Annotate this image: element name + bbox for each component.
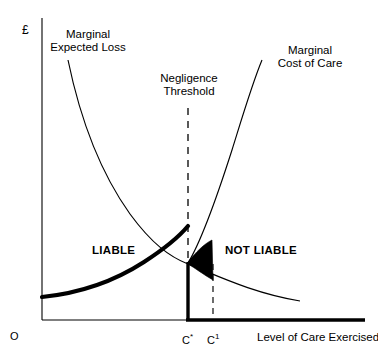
- marginal-expected-loss-label-line1: Marginal: [40, 28, 136, 41]
- y-axis-label: £: [22, 24, 29, 38]
- tick-label-c-star: C*: [182, 332, 193, 346]
- marginal-cost-of-care-label-line1: Marginal: [262, 44, 358, 57]
- liable-region-label: LIABLE: [92, 244, 135, 257]
- tick-label-c-star-superscript: *: [190, 332, 193, 341]
- marginal-expected-loss-label-line2: Expected Loss: [40, 41, 136, 54]
- marginal-cost-of-care-curve-bold: [42, 226, 188, 297]
- deadweight-triangle-shading: [188, 240, 213, 280]
- negligence-threshold-label: Negligence Threshold: [141, 72, 237, 98]
- marginal-cost-of-care-label: Marginal Cost of Care: [262, 44, 358, 70]
- negligence-threshold-label-line2: Threshold: [141, 85, 237, 98]
- negligence-threshold-label-line1: Negligence: [141, 72, 237, 85]
- negligence-economics-diagram: £ Marginal Expected Loss Marginal Cost o…: [0, 0, 378, 358]
- origin-label: O: [10, 330, 19, 343]
- not-liable-region-label: NOT LIABLE: [225, 244, 297, 257]
- marginal-expected-loss-label: Marginal Expected Loss: [40, 28, 136, 54]
- x-axis-label: Level of Care Exercised: [257, 331, 378, 344]
- tick-label-c-one-base: C: [207, 334, 215, 346]
- marginal-cost-of-care-label-line2: Cost of Care: [262, 57, 358, 70]
- tick-label-c-one: C1: [207, 332, 219, 346]
- tick-label-c-star-base: C: [182, 334, 190, 346]
- tick-label-c-one-superscript: 1: [215, 332, 219, 341]
